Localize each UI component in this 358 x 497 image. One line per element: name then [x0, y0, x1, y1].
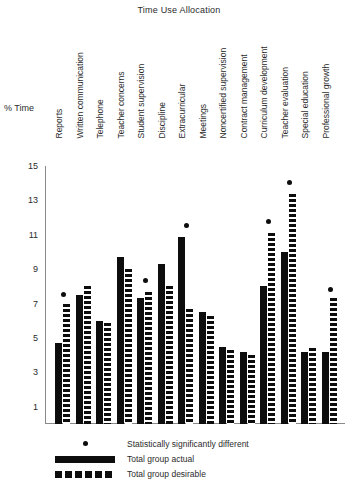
- bar-actual: [260, 286, 267, 424]
- bar-actual: [199, 312, 206, 424]
- legend-label: Statistically significantly different: [127, 439, 249, 449]
- bar-desirable: [289, 194, 296, 424]
- significance-dot: [266, 219, 271, 224]
- bar-actual: [137, 298, 144, 424]
- chart-legend: Statistically significantly differentTot…: [55, 437, 345, 482]
- legend-item: Total group actual: [55, 452, 345, 467]
- y-tick-label: 13: [14, 195, 38, 205]
- legend-dot-icon: [83, 441, 88, 446]
- bar-desirable: [309, 348, 316, 424]
- bar-actual: [281, 252, 288, 424]
- y-tick-label: 5: [14, 333, 38, 343]
- bar-actual: [178, 237, 185, 424]
- bar-actual: [322, 352, 329, 424]
- plot-area: [45, 166, 345, 424]
- bar-desirable: [186, 309, 193, 424]
- bar-desirable: [268, 233, 275, 424]
- significance-dot: [287, 180, 292, 185]
- y-tick-label: 7: [14, 299, 38, 309]
- bar-desirable: [125, 269, 132, 424]
- chart-container: Time Use Allocation % Time ReportsWritte…: [0, 0, 358, 497]
- significance-dot: [61, 292, 66, 297]
- bar-desirable: [104, 323, 111, 424]
- bar-actual: [76, 295, 83, 424]
- y-tick-label: 9: [14, 264, 38, 274]
- legend-key: [55, 452, 117, 467]
- bar-desirable: [227, 350, 234, 424]
- y-tick-label: 15: [14, 161, 38, 171]
- bar-desirable: [330, 298, 337, 424]
- bar-actual: [96, 321, 103, 424]
- legend-label: Total group actual: [127, 454, 194, 464]
- significance-dot: [184, 223, 189, 228]
- bar-actual: [219, 347, 226, 424]
- legend-item: Statistically significantly different: [55, 437, 345, 452]
- bar-desirable: [63, 304, 70, 424]
- legend-dashed-bar-icon: [55, 471, 115, 478]
- y-axis-line: [45, 166, 46, 424]
- legend-key: [55, 437, 117, 452]
- bar-actual: [301, 352, 308, 424]
- legend-solid-bar-icon: [55, 456, 115, 463]
- bar-desirable: [145, 292, 152, 424]
- bar-desirable: [207, 316, 214, 424]
- significance-dot: [143, 278, 148, 283]
- legend-label: Total group desirable: [127, 469, 206, 479]
- bar-actual: [117, 257, 124, 424]
- legend-item: Total group desirable: [55, 467, 345, 482]
- legend-key: [55, 467, 117, 482]
- bar-desirable: [248, 355, 255, 424]
- bar-desirable: [166, 286, 173, 424]
- y-tick-label: 1: [14, 402, 38, 412]
- y-tick-label: 11: [14, 230, 38, 240]
- bar-actual: [240, 352, 247, 424]
- bar-actual: [158, 264, 165, 424]
- y-tick-label: 3: [14, 367, 38, 377]
- bar-desirable: [84, 286, 91, 424]
- bar-actual: [55, 343, 62, 424]
- significance-dot: [328, 287, 333, 292]
